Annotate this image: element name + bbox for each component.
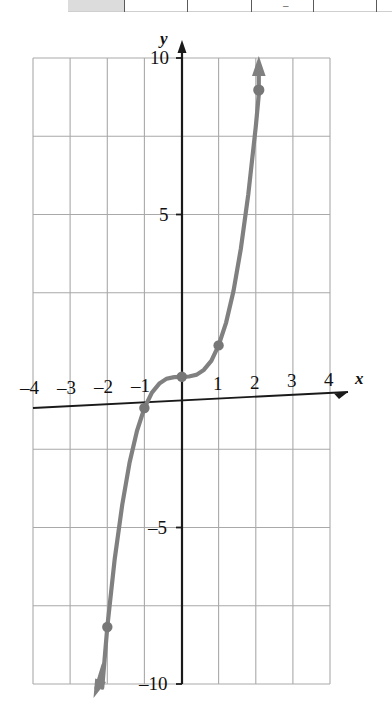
- x-tick-label-4: 4: [324, 370, 334, 389]
- x-tick-label-neg4: –4: [20, 378, 39, 397]
- point-2-9: [253, 84, 264, 95]
- x-axis: [33, 392, 348, 408]
- x-tick-label-neg2: –2: [94, 377, 113, 396]
- x-tick-label-1: 1: [213, 374, 223, 393]
- point-0-1: [177, 372, 187, 382]
- x-tick-label-3: 3: [287, 371, 297, 390]
- x-tick-label-neg3: –3: [57, 378, 76, 397]
- graph-canvas: [0, 0, 392, 712]
- x-axis-label: x: [355, 370, 364, 387]
- curve-marked-points: [102, 84, 264, 632]
- y-axis-label: y: [160, 30, 168, 47]
- y-axis-arrowhead: [178, 40, 187, 53]
- point-neg1-0: [139, 403, 149, 413]
- x-tick-label-2: 2: [250, 373, 260, 392]
- y-tick-label-5: 5: [159, 205, 169, 224]
- y-tick-label-10: 10: [150, 48, 169, 67]
- curve-up-arrowhead: [252, 56, 266, 76]
- point-1-2: [213, 340, 223, 350]
- cubic-curve: [102, 87, 259, 688]
- point-neg2-neg7: [102, 622, 112, 632]
- x-tick-label-neg1: –1: [131, 376, 150, 395]
- y-tick-label-neg5: –5: [148, 518, 167, 537]
- graph-figure: y x 10 5 –5 –10 –4 –3 –2 –1 1 2 3 4: [0, 0, 392, 712]
- y-tick-label-neg10: –10: [139, 674, 168, 693]
